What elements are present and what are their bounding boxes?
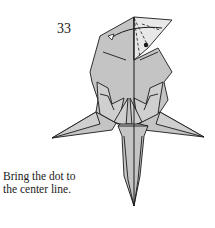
- tail: [118, 124, 148, 206]
- origami-diagram: [0, 0, 215, 228]
- dot-marker: [144, 43, 148, 47]
